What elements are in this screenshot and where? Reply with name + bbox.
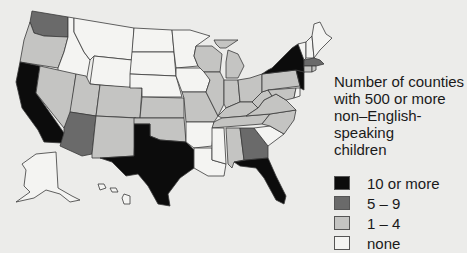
state-ME xyxy=(312,22,332,58)
legend-item-none: none xyxy=(334,233,467,253)
legend-title-line: non–English-speaking xyxy=(334,107,467,141)
state-NM xyxy=(92,116,136,158)
state-MS xyxy=(212,128,226,164)
legend-title-line: Number of counties xyxy=(334,73,467,90)
state-CT xyxy=(304,66,312,72)
state-MA xyxy=(304,58,324,66)
legend-item-10-or-more: 10 or more xyxy=(334,173,467,193)
legend-swatch xyxy=(334,216,350,230)
state-MI xyxy=(214,40,238,48)
legend-label: 10 or more xyxy=(367,175,440,192)
legend-swatch xyxy=(334,236,350,250)
state-AR xyxy=(186,122,214,148)
legend-swatch xyxy=(334,196,350,210)
state-MI-lower xyxy=(226,50,244,78)
state-KS xyxy=(140,97,184,118)
state-ND xyxy=(132,28,174,52)
state-HI-2 xyxy=(110,188,118,192)
state-FL xyxy=(234,158,286,204)
map-legend: Number of counties with 500 or more non–… xyxy=(334,73,467,253)
legend-title: Number of counties with 500 or more non–… xyxy=(334,73,467,158)
legend-title-line: with 500 or more xyxy=(334,90,467,107)
state-HI-3 xyxy=(122,194,130,204)
legend-item-1-to-4: 1 – 4 xyxy=(334,213,467,233)
legend-label: 1 – 4 xyxy=(367,215,400,232)
state-SD xyxy=(130,52,176,76)
state-HI xyxy=(98,184,106,190)
legend-label: none xyxy=(367,235,400,252)
state-AK xyxy=(16,152,80,202)
legend-swatch xyxy=(334,176,350,190)
legend-item-5-to-9: 5 – 9 xyxy=(334,193,467,213)
state-RI xyxy=(312,66,316,72)
legend-label: 5 – 9 xyxy=(367,195,400,212)
state-CO xyxy=(96,85,142,118)
state-WY xyxy=(90,56,132,88)
legend-title-line: children xyxy=(334,141,467,158)
